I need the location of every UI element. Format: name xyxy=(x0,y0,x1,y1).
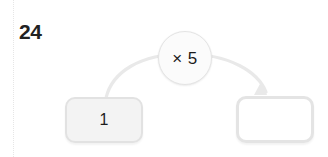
output-answer-cell[interactable] xyxy=(236,96,314,143)
worksheet-canvas: 24 × 5 1 xyxy=(0,0,328,157)
operator-label: × 5 xyxy=(172,50,198,67)
input-value-text: 1 xyxy=(100,112,109,128)
operator-bubble: × 5 xyxy=(158,31,212,85)
input-value-cell[interactable]: 1 xyxy=(65,97,143,143)
